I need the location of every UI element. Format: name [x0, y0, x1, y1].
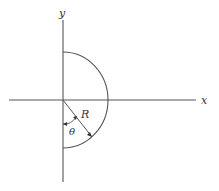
x-axis-label: x	[201, 94, 208, 107]
angle-arrowhead-icon	[63, 122, 67, 126]
angle-label: θ	[69, 126, 75, 137]
radius-arrowhead-icon	[87, 132, 92, 137]
radius-label: R	[80, 108, 89, 121]
y-axis-label: y	[58, 7, 66, 20]
angle-arrowhead-icon	[73, 116, 77, 120]
semicircle-diagram: y x R θ	[0, 0, 219, 191]
